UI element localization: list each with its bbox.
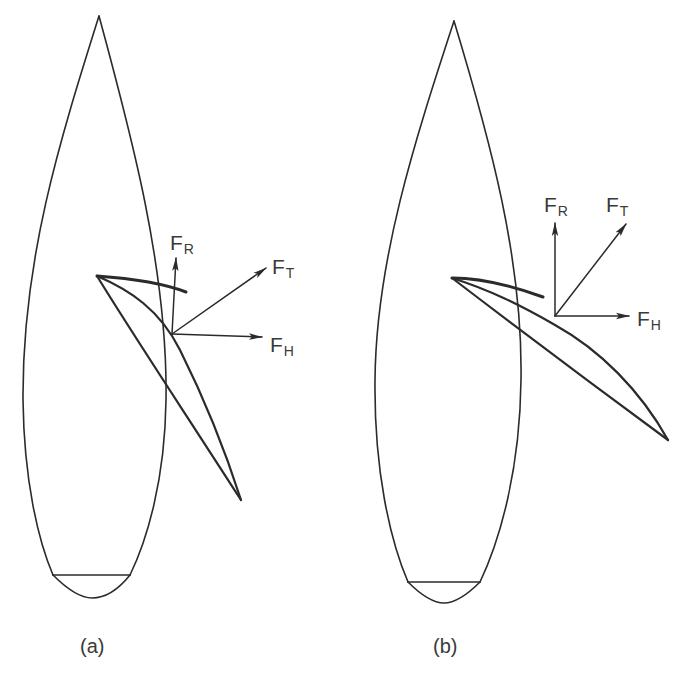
label-subscript: T	[620, 203, 629, 219]
force-vectors-a	[172, 258, 266, 337]
label-fh-b: FH	[637, 308, 661, 332]
label-subscript: R	[184, 241, 194, 257]
label-ft-a: FT	[272, 256, 294, 280]
panel-a	[23, 16, 266, 598]
label-main: F	[544, 193, 557, 216]
label-main: F	[170, 231, 183, 254]
label-main: F	[270, 333, 283, 356]
hull-a	[23, 16, 166, 598]
label-ft-b: FT	[606, 194, 628, 218]
label-main: F	[606, 193, 619, 216]
label-subscript: R	[558, 203, 568, 219]
sail-a	[97, 276, 241, 500]
label-subscript: T	[286, 265, 295, 281]
label-main: F	[637, 307, 650, 330]
label-fr-b: FR	[544, 194, 568, 218]
force-vectors-b	[555, 223, 629, 316]
force-arrow-fh-a	[172, 334, 262, 337]
label-fh-a: FH	[270, 334, 294, 358]
caption-b: (b)	[433, 636, 457, 656]
label-main: F	[272, 255, 285, 278]
sail-b	[452, 278, 668, 440]
force-arrow-fr-a	[172, 258, 176, 334]
force-arrow-ft-b	[555, 224, 626, 316]
hull-b	[375, 21, 521, 603]
sail-force-diagram	[0, 0, 694, 676]
caption-a: (a)	[80, 636, 104, 656]
label-subscript: H	[284, 343, 294, 359]
label-fr-a: FR	[170, 232, 194, 256]
panel-b	[375, 21, 668, 603]
force-arrow-ft-a	[172, 268, 266, 334]
label-subscript: H	[651, 317, 661, 333]
